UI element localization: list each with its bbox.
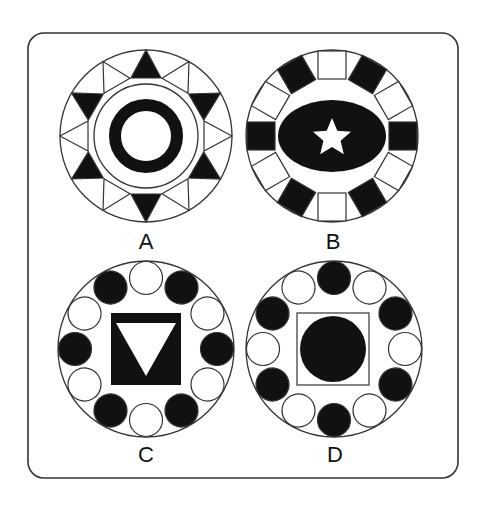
white-circle — [389, 333, 422, 366]
black-circle — [318, 262, 351, 295]
option-d[interactable] — [246, 261, 422, 437]
option-b-label: B — [326, 229, 341, 254]
white-square — [318, 51, 346, 79]
option-a-label: A — [139, 229, 154, 254]
option-a[interactable] — [60, 50, 232, 222]
black-center-circle — [300, 316, 366, 382]
black-square — [389, 122, 417, 150]
black-square — [247, 122, 275, 150]
black-circle — [201, 333, 234, 366]
white-circle — [130, 404, 163, 437]
black-circle — [59, 333, 92, 366]
option-c-label: C — [138, 442, 154, 467]
puzzle-figure: A B C D — [0, 0, 480, 508]
option-d-label: D — [327, 442, 343, 467]
option-c[interactable] — [58, 261, 234, 437]
white-circle — [247, 333, 280, 366]
black-circle — [318, 404, 351, 437]
white-square — [318, 193, 346, 221]
white-circle — [130, 262, 163, 295]
option-b[interactable] — [246, 50, 418, 222]
